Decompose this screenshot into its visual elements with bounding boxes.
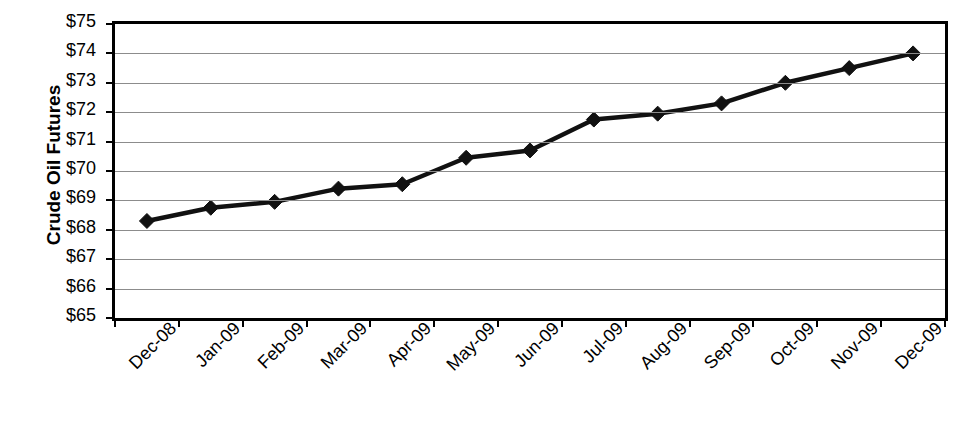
y-tick-mark [106,288,115,290]
x-tick-label: Aug-09 [636,318,692,374]
y-tick-mark [106,52,115,54]
y-axis-tick-labels: $75$74$73$72$71$70$69$68$67$66$65 [36,21,102,315]
gridline [115,259,945,260]
x-tick-label: Oct-09 [766,318,819,371]
gridline [115,171,945,172]
y-tick-label: $75 [66,11,96,32]
x-tick-label: Sep-09 [699,318,755,374]
data-point-marker: Mar-09: $69.40 [331,181,346,196]
y-tick-label: $71 [66,128,96,149]
data-point-marker: Jun-09: $70.70 [523,143,538,158]
data-point-marker: Nov-09: $73.50 [842,61,857,76]
gridline [115,83,945,84]
y-tick-mark [106,170,115,172]
y-tick-label: $68 [66,216,96,237]
y-tick-label: $66 [66,275,96,296]
x-tick-label: Dec-08 [125,318,181,374]
gridline [115,142,945,143]
y-tick-label: $67 [66,246,96,267]
x-tick-label: Mar-09 [317,318,372,373]
plot-inner: Dec-08: $68.30Jan-09: $68.75Feb-09: $68.… [115,24,945,318]
data-point-marker: Jan-09: $68.75 [203,200,218,215]
x-tick-label: Feb-09 [253,318,308,373]
y-tick-mark [106,229,115,231]
y-tick-mark [106,199,115,201]
y-tick-label: $73 [66,69,96,90]
x-tick-label: Jan-09 [191,318,245,372]
y-tick-label: $65 [66,305,96,326]
data-point-marker: Dec-08: $68.30 [139,213,154,228]
y-tick-mark [106,23,115,25]
data-point-marker: Apr-09: $69.55 [395,177,410,192]
series-line [147,53,913,221]
data-point-marker: Aug-09: $71.95 [650,106,665,121]
x-tick-label: Nov-09 [827,318,883,374]
caption-remnant [0,404,976,424]
gridline [115,200,945,201]
y-tick-mark [106,82,115,84]
y-tick-label: $74 [66,40,96,61]
data-point-marker: Feb-09: $68.95 [267,194,282,209]
gridline [115,53,945,54]
y-tick-label: $69 [66,187,96,208]
x-tick-label: Jul-09 [578,318,628,368]
x-axis-tick-labels: Dec-08Jan-09Feb-09Mar-09Apr-09May-09Jun-… [112,318,948,388]
crude-oil-futures-line-chart: Crude Oil Futures $75$74$73$72$71$70$69$… [0,0,976,424]
x-tick-label: Dec-09 [891,318,947,374]
y-tick-mark [106,141,115,143]
x-tick-label: Apr-09 [383,318,436,371]
x-tick-label: Jun-09 [510,318,564,372]
y-tick-mark [106,111,115,113]
y-tick-mark [106,258,115,260]
data-point-marker: Jul-09: $71.75 [586,112,601,127]
gridline [115,230,945,231]
y-tick-label: $72 [66,99,96,120]
data-point-marker: Sep-09: $72.30 [714,96,729,111]
x-tick-label: May-09 [443,318,500,375]
plot-area: Dec-08: $68.30Jan-09: $68.75Feb-09: $68.… [112,21,948,321]
y-tick-label: $70 [66,158,96,179]
data-point-marker: May-09: $70.45 [459,150,474,165]
gridline [115,112,945,113]
gridline [115,289,945,290]
